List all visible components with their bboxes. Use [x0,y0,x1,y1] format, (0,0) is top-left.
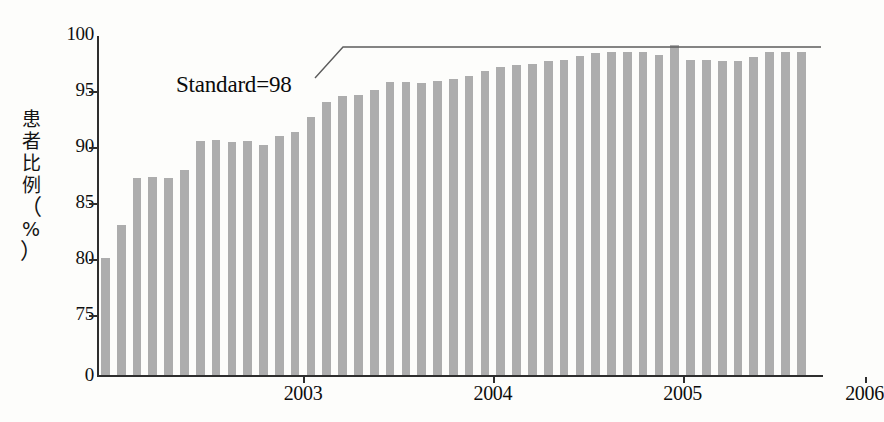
bar [386,82,395,375]
bar [718,61,727,375]
bar [512,65,521,375]
bar [496,67,505,375]
bar [433,81,442,375]
y-tick-label: 80 [48,247,94,269]
bar [164,178,173,375]
bar [338,96,347,375]
bar [465,76,474,375]
bar [259,145,268,375]
bar [196,141,205,375]
bar [481,71,490,375]
bar [291,132,300,375]
bar [639,52,648,375]
bar [607,52,616,375]
y-axis-title-char: 例 [14,174,48,196]
standard-annotation-label: Standard=98 [176,72,292,98]
bar [765,52,774,375]
y-tick-mark [89,259,97,261]
x-tick-label: 2004 [473,382,512,405]
y-axis-title-char: % [14,218,48,240]
bar [749,57,758,375]
bar [544,61,553,375]
bar [402,82,411,375]
bar [702,60,711,375]
y-axis-tick-labels: 10095908580750 [44,0,94,422]
bar [686,60,695,375]
bar [228,142,237,375]
x-tick-label: 2003 [284,382,323,405]
y-axis-title-char: 患 [14,108,48,130]
bar [243,141,252,375]
y-axis-title-char: （ [14,196,48,218]
bar [591,53,600,375]
bar [576,56,585,375]
bar [307,117,316,375]
x-axis-line [97,375,823,377]
y-axis-title-char: 者 [14,130,48,152]
bar [322,102,331,375]
bar [275,136,284,375]
y-tick-mark [89,147,97,149]
y-tick-label: 75 [48,303,94,325]
y-tick-mark [89,203,97,205]
y-tick-mark [89,315,97,317]
bar [212,140,221,375]
bar [101,258,110,375]
x-tick-label: 2006 [845,382,884,405]
bar [670,45,679,375]
bar [655,55,664,375]
bar [180,170,189,375]
y-tick-mark [89,91,97,93]
bar [734,61,743,375]
bar [797,52,806,375]
y-tick-label: 90 [48,135,94,157]
y-tick-label: 100 [48,23,94,45]
y-tick-label: 0 [48,364,94,386]
x-tick-label: 2005 [663,382,702,405]
bar [370,90,379,375]
bar [449,79,458,375]
y-tick-label: 85 [48,191,94,213]
bar [117,225,126,375]
bar [133,178,142,375]
bar [148,177,157,375]
bar [354,95,363,375]
y-axis-title-char: 比 [14,152,48,174]
y-axis-title: 患者比例（%） [14,108,48,262]
bar [528,64,537,375]
y-tick-label: 95 [48,79,94,101]
y-axis-title-char: ） [14,240,48,262]
bar [623,52,632,375]
bar [560,60,569,375]
bar [417,83,426,375]
bar [781,52,790,375]
